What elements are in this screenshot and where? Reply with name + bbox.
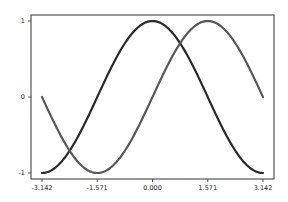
y-tick-label: -1	[19, 169, 25, 177]
x-tick-label: 3.142	[254, 184, 273, 192]
y-tick-label: 1	[21, 17, 25, 25]
x-tick-label: -3.142	[32, 184, 53, 192]
x-tick-label: 1.571	[198, 184, 217, 192]
x-tick-label: -1.571	[87, 184, 108, 192]
x-axis: -3.142-1.5710.0001.5713.142	[32, 179, 273, 192]
line-chart: -3.142-1.5710.0001.5713.142 -101	[0, 0, 288, 202]
x-tick-label: 0.000	[143, 184, 162, 192]
y-axis: -101	[19, 17, 31, 177]
y-tick-label: 0	[21, 93, 25, 101]
